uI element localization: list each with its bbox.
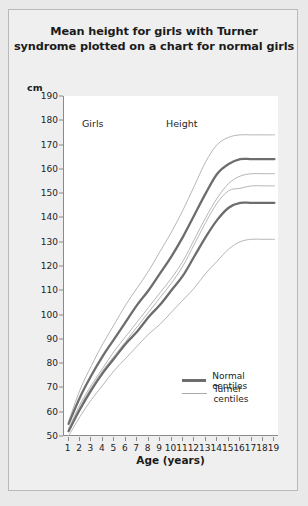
y-axis-tick-label: 140: [19, 212, 63, 222]
plot-area: Girls Height Normal centiles Turner cent…: [63, 96, 278, 436]
x-axis-tick-label: 7: [133, 443, 139, 453]
x-axis-tick-label: 16: [233, 443, 244, 453]
x-axis-tick-mark: [136, 437, 137, 441]
y-axis-tick-label: 160: [19, 164, 63, 174]
y-axis-tick-label: 60: [19, 407, 63, 417]
y-axis-tick-label: 110: [19, 285, 63, 295]
x-axis-title: Age (years): [63, 454, 278, 466]
y-axis-tick-label: 190: [19, 91, 63, 101]
x-axis-tick-mark: [262, 437, 263, 441]
y-axis-tick-label: 80: [19, 358, 63, 368]
legend-label-turner: Turner centiles: [213, 384, 278, 404]
x-axis-tick-label: 14: [211, 443, 222, 453]
y-axis-tick-label: 180: [19, 115, 63, 125]
y-axis-tick-label: 70: [19, 382, 63, 392]
x-axis-tick-label: 2: [76, 443, 82, 453]
chart-title-line-2: syndrome plotted on a chart for normal g…: [9, 39, 299, 54]
legend-swatch-turner-icon: [182, 393, 207, 394]
x-axis-tick-label: 19: [268, 443, 279, 453]
x-axis-tick-label: 17: [245, 443, 256, 453]
x-axis-tick-mark: [205, 437, 206, 441]
x-axis-tick-label: 5: [110, 443, 116, 453]
x-axis-tick-mark: [239, 437, 240, 441]
x-axis-tick-label: 3: [88, 443, 94, 453]
x-axis-tick-mark: [216, 437, 217, 441]
x-axis-tick-mark: [148, 437, 149, 441]
x-axis-tick-label: 18: [256, 443, 267, 453]
x-axis-tick-label: 13: [199, 443, 210, 453]
chart-title: Mean height for girls with Turner syndro…: [9, 24, 299, 54]
x-axis-tick-label: 4: [99, 443, 105, 453]
y-axis-tick-label: 170: [19, 140, 63, 150]
legend-item-turner: Turner centiles: [182, 387, 278, 400]
x-axis-tick-mark: [251, 437, 252, 441]
x-axis-tick-label: 10: [165, 443, 176, 453]
x-axis-tick-label: 9: [156, 443, 162, 453]
y-axis-tick-label: 100: [19, 310, 63, 320]
legend-swatch-normal-icon: [182, 379, 206, 381]
y-axis-tick-label: 150: [19, 188, 63, 198]
annotation-height: Height: [166, 118, 197, 129]
x-axis-tick-label: 6: [122, 443, 128, 453]
x-axis-tick-label: 15: [222, 443, 233, 453]
chart-title-line-1: Mean height for girls with Turner: [9, 24, 299, 39]
y-axis-tick-label: 130: [19, 237, 63, 247]
x-axis-tick-label: 11: [176, 443, 187, 453]
growth-chart-figure: Mean height for girls with Turner syndro…: [8, 9, 298, 491]
annotation-girls: Girls: [82, 118, 104, 129]
x-axis-tick-mark: [68, 437, 69, 441]
x-axis-tick-mark: [79, 437, 80, 441]
y-axis-tick-label: 90: [19, 334, 63, 344]
x-axis-tick-mark: [159, 437, 160, 441]
y-axis-tick-label: 50: [19, 431, 63, 441]
chart-legend: Normal centiles Turner centiles: [182, 374, 278, 400]
x-axis-tick-mark: [171, 437, 172, 441]
centile-curve: [69, 239, 275, 436]
x-axis-tick-mark: [113, 437, 114, 441]
x-axis-tick-mark: [182, 437, 183, 441]
x-axis-tick-mark: [193, 437, 194, 441]
x-axis-tick-mark: [273, 437, 274, 441]
y-axis-tick-label: 120: [19, 261, 63, 271]
x-axis-tick-mark: [125, 437, 126, 441]
plot-wrapper: cm 5060708090100110120130140150160170180…: [19, 72, 289, 480]
x-axis-tick-mark: [228, 437, 229, 441]
x-axis-tick-label: 8: [145, 443, 151, 453]
x-axis-tick-label: 12: [188, 443, 199, 453]
x-axis-tick-mark: [102, 437, 103, 441]
x-axis-tick-label: 1: [65, 443, 71, 453]
x-axis-tick-mark: [90, 437, 91, 441]
